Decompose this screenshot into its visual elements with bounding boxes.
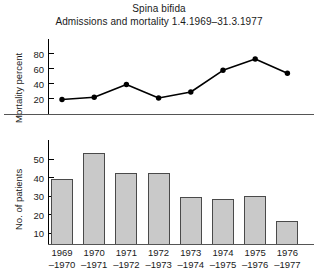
page-title: Spina bifida bbox=[0, 2, 318, 15]
data-point bbox=[285, 71, 290, 76]
data-point bbox=[188, 89, 193, 94]
bar-ytick-50: 50 bbox=[18, 154, 44, 165]
bar bbox=[51, 179, 73, 244]
bar-ytick-40: 40 bbox=[18, 173, 44, 184]
bar bbox=[115, 173, 137, 244]
data-point bbox=[220, 68, 225, 73]
line-chart-plot-area bbox=[0, 28, 318, 128]
data-point bbox=[92, 95, 97, 100]
bar bbox=[148, 173, 170, 244]
mortality-line-series bbox=[62, 59, 287, 100]
bar-tickmark-50 bbox=[48, 159, 54, 160]
data-point bbox=[253, 56, 258, 61]
chart-subtitle: Admissions and mortality 1.4.1969–31.3.1… bbox=[0, 15, 318, 28]
bar bbox=[180, 197, 202, 244]
data-point bbox=[59, 97, 64, 102]
data-point bbox=[124, 82, 129, 87]
data-point bbox=[156, 95, 161, 100]
bar-chart-y-axis-spine bbox=[48, 140, 49, 244]
chart-title-block: Spina bifida Admissions and mortality 1.… bbox=[0, 2, 318, 28]
bar-chart-no-of-patients: No. of patients 50 40 30 20 10 1969–1970… bbox=[0, 132, 318, 272]
bar bbox=[212, 199, 234, 244]
line-chart-mortality-percent: Mortality percent 80 60 40 20 bbox=[0, 28, 318, 128]
figure-spina-bifida: Spina bifida Admissions and mortality 1.… bbox=[0, 0, 318, 272]
bar bbox=[83, 153, 105, 244]
bar bbox=[244, 196, 266, 245]
x-axis-tick-label-end-year: –1977 bbox=[267, 259, 307, 271]
bar-ytick-20: 20 bbox=[18, 210, 44, 221]
x-axis-tick-label-start-year: 1976 bbox=[267, 247, 307, 259]
bar-ytick-10: 10 bbox=[18, 228, 44, 239]
bar bbox=[276, 221, 298, 244]
bar-ytick-30: 30 bbox=[18, 191, 44, 202]
bar-chart-baseline bbox=[48, 244, 314, 245]
x-axis-tick-label: 1976–1977 bbox=[267, 247, 307, 271]
